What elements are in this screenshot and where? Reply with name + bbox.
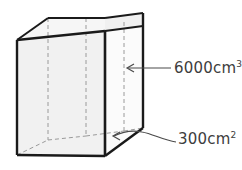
- edge-bottom-front: [17, 155, 105, 156]
- base-area-label: 300cm2: [178, 132, 236, 147]
- volume-label-value: 6000cm: [174, 59, 236, 77]
- figure-container: 6000cm3 300cm2: [0, 0, 242, 170]
- prism-front-face: [17, 31, 105, 156]
- base-area-label-value: 300cm: [178, 130, 231, 148]
- volume-label: 6000cm3: [174, 61, 242, 76]
- base-area-label-exponent: 2: [231, 130, 237, 140]
- volume-label-exponent: 3: [236, 59, 242, 69]
